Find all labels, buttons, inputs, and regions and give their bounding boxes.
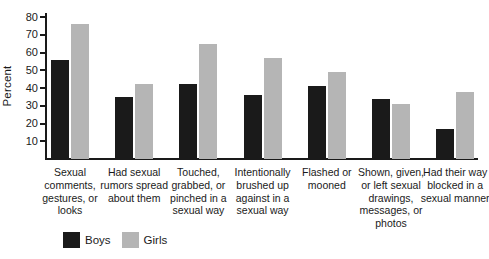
x-category-label-6: Had their way blocked in a sexual manner bbox=[420, 166, 489, 204]
legend-label-girls: Girls bbox=[144, 234, 168, 246]
y-tick-label-30: 30 bbox=[16, 100, 38, 111]
y-tick-50 bbox=[40, 69, 45, 71]
y-tick-70 bbox=[40, 34, 45, 36]
bar-girls-0 bbox=[71, 24, 89, 159]
x-category-label-2: Touched, grabbed, or pinched in a sexual… bbox=[163, 166, 233, 217]
legend-label-boys: Boys bbox=[85, 234, 111, 246]
bar-girls-5 bbox=[392, 104, 410, 159]
y-tick-20 bbox=[40, 123, 45, 125]
bar-boys-5 bbox=[372, 99, 390, 159]
bar-girls-3 bbox=[264, 58, 282, 159]
legend: Boys Girls bbox=[63, 232, 167, 248]
bar-girls-4 bbox=[328, 72, 346, 159]
boys-color-swatch bbox=[63, 232, 80, 248]
bar-boys-3 bbox=[244, 95, 262, 159]
y-tick-label-80: 80 bbox=[16, 12, 38, 23]
girls-color-swatch bbox=[122, 232, 139, 248]
y-tick-label-20: 20 bbox=[16, 118, 38, 129]
y-tick-40 bbox=[40, 87, 45, 89]
legend-item-boys: Boys bbox=[63, 232, 111, 248]
y-tick-60 bbox=[40, 52, 45, 54]
bar-chart-figure: Percent 1020304050607080Sexual comments,… bbox=[0, 0, 489, 259]
bar-girls-1 bbox=[135, 84, 153, 159]
x-category-label-1: Had sexual rumors spread about them bbox=[99, 166, 169, 204]
y-tick-80 bbox=[40, 16, 45, 18]
bar-boys-4 bbox=[308, 86, 326, 159]
y-tick-label-50: 50 bbox=[16, 65, 38, 76]
bar-girls-2 bbox=[199, 44, 217, 159]
bar-boys-2 bbox=[179, 84, 197, 159]
bar-boys-6 bbox=[436, 129, 454, 159]
bar-boys-1 bbox=[115, 97, 133, 159]
y-tick-label-60: 60 bbox=[16, 47, 38, 58]
x-category-label-4: Flashed or mooned bbox=[292, 166, 362, 192]
y-axis-line bbox=[45, 13, 47, 160]
y-tick-30 bbox=[40, 105, 45, 107]
x-category-label-3: Intentionally brushed up against in a se… bbox=[228, 166, 298, 217]
x-category-label-0: Sexual comments, gestures, or looks bbox=[35, 166, 105, 217]
y-tick-label-10: 10 bbox=[16, 136, 38, 147]
plot-area: 1020304050607080Sexual comments, gesture… bbox=[0, 0, 489, 259]
bar-boys-0 bbox=[51, 60, 69, 159]
y-tick-label-70: 70 bbox=[16, 29, 38, 40]
legend-item-girls: Girls bbox=[122, 232, 168, 248]
bar-girls-6 bbox=[456, 92, 474, 159]
y-tick-10 bbox=[40, 140, 45, 142]
x-category-label-5: Shown, given, or left sexual drawings, m… bbox=[356, 166, 426, 230]
y-tick-label-40: 40 bbox=[16, 83, 38, 94]
